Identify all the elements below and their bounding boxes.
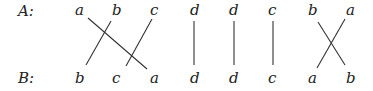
- edge-c-crossing: [126, 19, 152, 66]
- row-label-a: A:: [16, 2, 34, 20]
- top-symbol-3: c: [150, 1, 159, 19]
- top-symbol-6: c: [268, 1, 277, 19]
- top-symbol-7: b: [308, 1, 318, 19]
- bottom-symbol-3: a: [150, 69, 159, 87]
- bottom-symbol-1: b: [75, 69, 85, 87]
- bottom-symbol-5: d: [229, 69, 239, 87]
- top-symbol-5: d: [229, 1, 239, 19]
- bottom-symbol-6: c: [268, 69, 277, 87]
- bottom-symbol-7: a: [308, 69, 317, 87]
- top-symbol-8: a: [346, 1, 355, 19]
- bottom-symbol-8: b: [346, 69, 356, 87]
- bottom-symbol-4: d: [190, 69, 200, 87]
- top-symbol-2: b: [112, 1, 122, 19]
- top-symbol-1: a: [75, 1, 84, 19]
- top-symbol-4: d: [190, 1, 200, 19]
- string-matching-diagram: A: B: a b c d d c b a b c a d d c a b: [0, 0, 373, 91]
- row-label-b: B:: [17, 69, 34, 87]
- bottom-symbol-2: c: [112, 69, 121, 87]
